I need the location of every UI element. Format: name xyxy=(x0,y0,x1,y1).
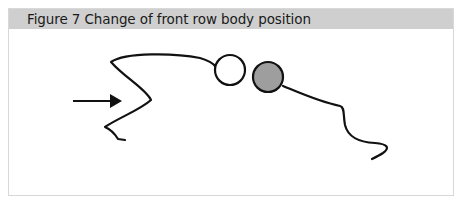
opponent-body-line xyxy=(283,86,387,159)
front-row-body-line xyxy=(105,54,216,140)
direction-arrow-icon xyxy=(73,94,122,108)
player-head-white xyxy=(215,55,245,85)
body-position-diagram xyxy=(0,0,462,202)
opponent-head-gray xyxy=(253,62,283,92)
